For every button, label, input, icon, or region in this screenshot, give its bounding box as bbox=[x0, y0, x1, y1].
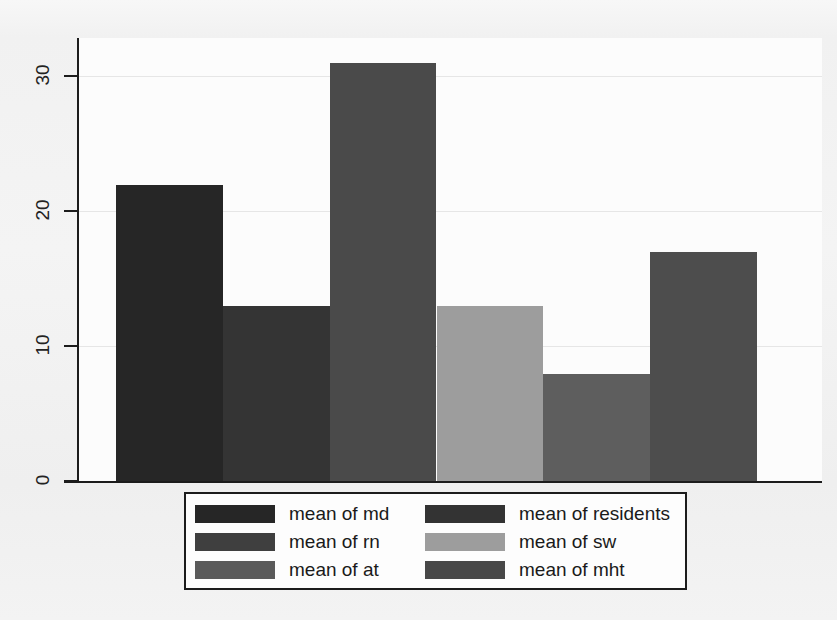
legend-item: mean of mht bbox=[425, 559, 685, 581]
y-tick-20 bbox=[64, 210, 78, 212]
y-axis-line bbox=[77, 38, 79, 482]
x-axis-line bbox=[64, 481, 822, 483]
legend-swatch-icon bbox=[195, 561, 275, 579]
chart-canvas: 0102030 mean of mdmean of residentsmean … bbox=[0, 0, 837, 620]
legend-label: mean of residents bbox=[519, 503, 670, 525]
bar-series bbox=[0, 0, 837, 482]
y-tick-0 bbox=[64, 480, 78, 482]
bar-at bbox=[330, 63, 437, 482]
legend-entries: mean of mdmean of residentsmean of rnmea… bbox=[186, 500, 685, 584]
legend-item: mean of at bbox=[195, 559, 425, 581]
bar-md bbox=[116, 185, 223, 482]
legend-swatch-icon bbox=[425, 505, 505, 523]
y-tick-label-10: 10 bbox=[32, 328, 54, 362]
chart-legend: mean of mdmean of residentsmean of rnmea… bbox=[184, 492, 687, 590]
bar-mht bbox=[650, 252, 757, 482]
legend-swatch-icon bbox=[425, 533, 505, 551]
bar-residents bbox=[543, 374, 650, 482]
legend-swatch-icon bbox=[195, 505, 275, 523]
legend-label: mean of sw bbox=[519, 531, 616, 553]
y-tick-label-20: 20 bbox=[32, 193, 54, 227]
legend-item: mean of rn bbox=[195, 531, 425, 553]
y-tick-30 bbox=[64, 75, 78, 77]
y-tick-10 bbox=[64, 345, 78, 347]
y-tick-label-30: 30 bbox=[32, 58, 54, 92]
legend-label: mean of at bbox=[289, 559, 379, 581]
legend-item: mean of sw bbox=[425, 531, 685, 553]
bar-sw bbox=[437, 306, 544, 482]
legend-label: mean of mht bbox=[519, 559, 625, 581]
bar-rn bbox=[223, 306, 330, 482]
legend-swatch-icon bbox=[425, 561, 505, 579]
y-tick-label-0: 0 bbox=[32, 463, 54, 497]
legend-item: mean of residents bbox=[425, 503, 685, 525]
legend-label: mean of rn bbox=[289, 531, 380, 553]
legend-label: mean of md bbox=[289, 503, 389, 525]
legend-item: mean of md bbox=[195, 503, 425, 525]
legend-swatch-icon bbox=[195, 533, 275, 551]
